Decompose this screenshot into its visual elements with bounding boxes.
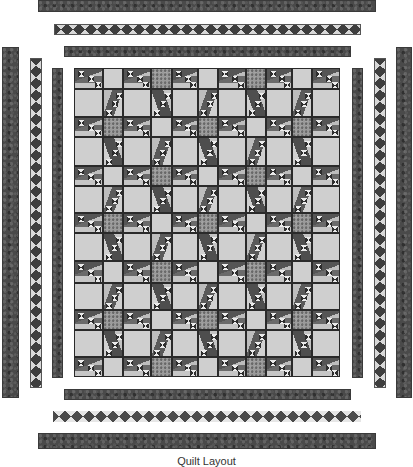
hourglass-unit [249,254,255,260]
light-square-block [218,330,246,357]
light-square-block [312,89,340,117]
hourglass-unit [165,190,171,196]
hourglass-unit [332,370,338,376]
hourglass-unit [301,295,307,301]
border-bottom-fabric-strip [64,389,351,400]
cornerstone-block [246,68,266,89]
hourglass-unit [176,169,182,175]
cornerstone-block [246,213,266,233]
cornerstone-block [292,310,312,330]
light-square-block [123,283,151,310]
vertical-staircase-block [198,330,218,357]
vertical-staircase-block [198,137,218,166]
light-square-block [172,137,198,166]
hourglass-unit [332,276,338,282]
cornerstone-block [246,310,266,330]
hourglass-unit [88,318,94,324]
vertical-staircase-block [198,89,218,117]
vertical-staircase-block [292,233,312,261]
hourglass-unit [301,198,307,204]
hourglass-unit [255,198,261,204]
light-square-block [74,330,103,357]
light-square-block [266,89,292,117]
light-square-block [312,330,340,357]
vertical-staircase-block [246,233,266,261]
hourglass-unit [332,226,338,232]
cornerstone-block [292,117,312,137]
light-square-block [123,330,151,357]
cornerstone-block [292,213,312,233]
border-left-fabric-strip [52,68,63,378]
hourglass-unit [106,350,112,356]
cornerstone-block [198,261,218,283]
hourglass-unit [211,237,217,243]
hourglass-unit [106,206,112,212]
border-right-pieced-strip [374,58,386,388]
horizontal-staircase-block [312,166,340,186]
hourglass-unit [190,226,196,232]
vertical-staircase-block [198,233,218,261]
hourglass-unit [201,110,207,116]
hourglass-unit [127,360,133,366]
hourglass-unit [106,303,112,309]
vertical-staircase-block [292,89,312,117]
hourglass-unit [112,245,118,251]
hourglass-unit [154,303,160,309]
light-square-block [218,137,246,166]
hourglass-unit [112,150,118,156]
hourglass-unit [249,206,255,212]
horizontal-staircase-block [266,68,292,89]
light-square-block [218,89,246,117]
hourglass-unit [207,198,213,204]
hourglass-unit [255,101,261,107]
hourglass-unit [160,245,166,251]
horizontal-staircase-block [312,213,340,233]
hourglass-unit [154,159,160,165]
cornerstone-block [103,357,123,377]
hourglass-unit [211,287,217,293]
hourglass-unit [95,370,101,376]
hourglass-unit [154,350,160,356]
vertical-staircase-block [151,137,172,166]
border-right-fabric-strip [352,68,363,378]
hourglass-unit [143,276,149,282]
hourglass-unit [316,71,322,77]
hourglass-unit [127,313,133,319]
horizontal-staircase-block [123,117,151,137]
vertical-staircase-block [151,283,172,310]
hourglass-unit [255,245,261,251]
vertical-staircase-block [151,186,172,213]
hourglass-unit [316,360,322,366]
hourglass-unit [305,93,311,99]
vertical-staircase-block [103,137,123,166]
light-square-block [312,233,340,261]
cornerstone-block [103,310,123,330]
hourglass-unit [259,190,265,196]
vertical-staircase-block [103,330,123,357]
horizontal-staircase-block [172,166,198,186]
horizontal-staircase-block [218,261,246,283]
quilt-caption: Quilt Layout [0,455,413,467]
vertical-staircase-block [246,283,266,310]
hourglass-unit [165,334,171,340]
hourglass-unit [295,303,301,309]
vertical-staircase-block [292,137,312,166]
horizontal-staircase-block [218,310,246,330]
hourglass-unit [95,179,101,185]
cornerstone-block [292,68,312,89]
hourglass-unit [211,93,217,99]
quilt-center [74,68,340,377]
hourglass-unit [270,120,276,126]
hourglass-unit [332,179,338,185]
hourglass-unit [238,179,244,185]
light-square-block [123,137,151,166]
hourglass-unit [207,245,213,251]
hourglass-unit [316,264,322,270]
cornerstone-block [103,117,123,137]
cornerstone-block [246,261,266,283]
border-right-fabric-strip [396,47,412,398]
hourglass-unit [176,360,182,366]
cornerstone-block [103,213,123,233]
hourglass-unit [249,350,255,356]
hourglass-unit [295,206,301,212]
